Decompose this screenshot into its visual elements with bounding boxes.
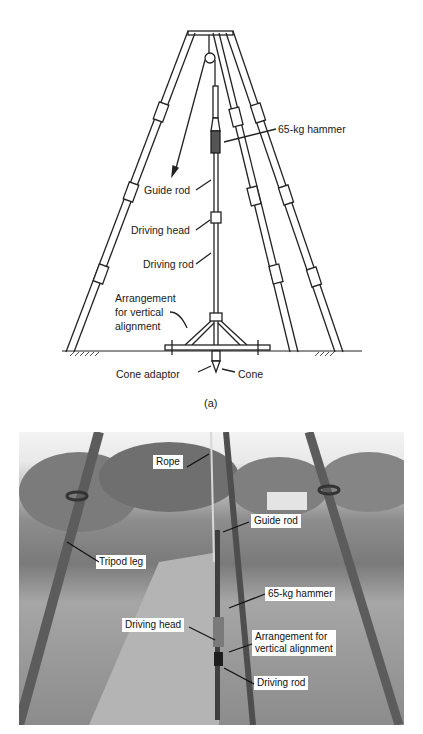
field-photo: Rope Guide rod Tripod leg 65-kg hammer D… bbox=[19, 432, 404, 725]
caption-a: (a) bbox=[204, 397, 217, 409]
tripod-drawing: 65-kg hammer Guide rod Driving head Driv… bbox=[0, 0, 423, 420]
label-driving-rod: Driving rod bbox=[143, 258, 194, 270]
photo-arrows bbox=[19, 432, 404, 725]
label-hammer: 65-kg hammer bbox=[278, 123, 346, 135]
tripod-drawing-lines bbox=[0, 0, 423, 420]
label-driving-head: Driving head bbox=[131, 224, 190, 236]
label-cone-adaptor: Cone adaptor bbox=[116, 368, 180, 380]
label-alignment-2: for vertical bbox=[115, 306, 163, 318]
label-guide-rod: Guide rod bbox=[144, 184, 190, 196]
label-alignment-1: Arrangement bbox=[115, 292, 176, 304]
label-cone: Cone bbox=[238, 368, 263, 380]
label-alignment-3: alignment bbox=[115, 320, 161, 332]
